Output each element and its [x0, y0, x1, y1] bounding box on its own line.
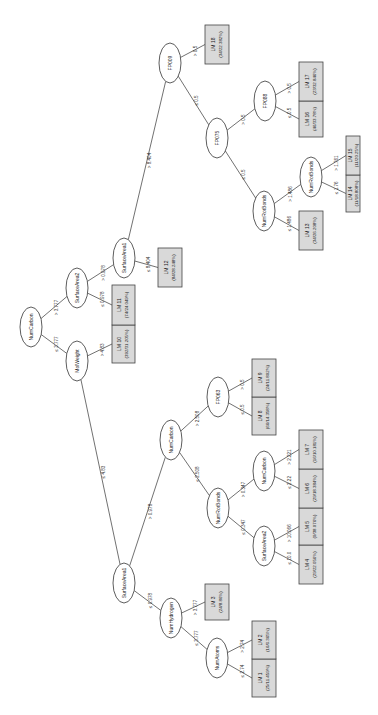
node-attribute-label: FP063	[215, 389, 221, 404]
tree-edge: > 0.347	[228, 479, 254, 500]
leaf-model-box: LM 17(23/32.846%)	[299, 62, 323, 101]
tree-edge: ≤ 0.978	[134, 591, 161, 611]
tree-edge: > 8.404	[128, 81, 165, 239]
leaf-model-name: LM 1	[257, 672, 263, 683]
leaf-model-stats: (16/10.181%)	[312, 436, 317, 463]
edge-split-label: ≤ 10.0	[287, 551, 292, 564]
edge-split-label: > 10.066	[287, 524, 292, 542]
edge-split-label: > 8.404	[147, 152, 152, 168]
leaf-model-box: LM 4(29/22.056%)	[299, 545, 323, 584]
tree-edge: > 0.978	[87, 265, 113, 282]
edge-split-label: > 1.761	[334, 155, 339, 171]
leaf-model-box: LM 12(84/28.248%)	[158, 248, 182, 287]
split-node: NumAtoms	[206, 638, 228, 678]
edge-split-label: ≤ 1.486	[287, 216, 292, 232]
leaf-model-stats: (16/6.365%)	[265, 628, 270, 652]
edge-split-label: ≤ 3.777	[194, 630, 199, 646]
split-node: FP088	[254, 81, 276, 121]
edge-split-label: > 1.486	[288, 186, 293, 202]
split-node: SurfaceArea2	[253, 526, 275, 566]
split-node: MolWeight	[66, 341, 88, 381]
leaf-model-name: LM 8	[257, 410, 263, 421]
tree-edge: ≤ 10.0	[275, 551, 299, 564]
edge-split-label: > 2.221	[287, 449, 292, 465]
leaf-model-stats: (34/26.208%)	[312, 217, 317, 244]
tree-edge: > 0.5	[181, 45, 205, 58]
edge-split-label: ≤ 1.76	[334, 181, 339, 194]
edge-split-label: ≤ 0.347	[241, 519, 246, 535]
tree-edge: ≤ 4.83	[81, 380, 120, 565]
leaf-model-stats: (29/18.384%)	[312, 475, 317, 502]
edge-split-label: > 2.508	[195, 410, 200, 426]
leaf-model-box: LM 9(24/11.802%)	[252, 359, 276, 397]
edge-split-label: ≤ 0.978	[100, 291, 105, 307]
tree-edge: ≤ 0.5	[225, 151, 255, 198]
tree-edge: ≤ 0.5	[178, 76, 208, 125]
tree-edge: > 2.221	[274, 449, 299, 465]
leaf-model-name: LM 13	[304, 223, 310, 237]
edge-split-label: ≤ 0.5	[241, 169, 246, 180]
leaf-model-box: LM 5(9/38.076%)	[299, 508, 323, 545]
leaf-model-box: LM 13(34/26.208%)	[299, 211, 323, 250]
tree-edge: > 1.761	[321, 155, 346, 171]
edge-split-label: > 0.5	[240, 379, 245, 390]
tree-edge: > 1.486	[274, 184, 301, 203]
leaf-model-stats: (9/38.076%)	[312, 514, 317, 538]
node-attribute-label: FP075	[214, 130, 220, 145]
leaf-model-box: LM 3(24/8.86%)	[205, 584, 229, 620]
split-node: FP009	[159, 43, 181, 83]
leaf-model-name: LM 10	[116, 337, 122, 351]
leaf-model-name: LM 4	[304, 559, 310, 570]
tree-edge: > 0.978	[130, 457, 166, 566]
leaf-model-box: LM 16(46/33.78%)	[299, 101, 323, 137]
node-attribute-label: MolWeight	[74, 349, 80, 373]
edge-split-label: > 0.5	[241, 114, 246, 125]
edge-split-label: ≤ 2.508	[195, 466, 200, 482]
tree-edge: ≤ 2.508	[180, 452, 210, 495]
leaf-model-name: LM 15	[347, 148, 353, 162]
node-attribute-label: NumRotBonds	[215, 491, 221, 524]
leaf-model-stats: (29/22.056%)	[312, 551, 317, 578]
node-attribute-label: NumRotBonds	[308, 160, 314, 193]
tree-edge: ≤ 3.777	[181, 627, 207, 650]
split-node: NumCarbon	[253, 451, 275, 491]
leaf-model-box: LM 8(66/14.358%)	[252, 397, 276, 435]
tree-edge: > 2.508	[181, 406, 208, 431]
tree-edge: ≤ 2.22	[275, 476, 299, 489]
node-attribute-label: NumHydrogen	[168, 602, 174, 634]
leaf-model-name: LM 2	[257, 634, 263, 645]
leaf-model-box: LM 18(34/22.382%)	[205, 25, 229, 64]
node-attribute-label: FP009	[167, 55, 173, 70]
leaf-model-stats: (24/11.802%)	[265, 364, 270, 391]
tree-edge: ≤ 3.777	[41, 335, 67, 354]
split-node: NumRotBonds	[253, 191, 275, 231]
leaf-model-box: LM 11(74/24.049%)	[112, 285, 135, 325]
edge-split-label: ≤ 0.5	[287, 107, 292, 118]
leaf-model-box: LM 2(16/6.365%)	[252, 621, 276, 659]
leaf-model-stats: (11/18.808%)	[354, 180, 359, 207]
node-attribute-label: FP088	[262, 93, 268, 108]
tree-edge: ≤ 0.978	[88, 291, 112, 307]
tree-edge: > 0.5	[229, 378, 252, 391]
edge-split-label: > 4.83	[100, 343, 105, 356]
leaf-model-stats: (24/8.86%)	[218, 591, 223, 613]
node-attribute-label: NumCarbon	[168, 426, 174, 453]
tree-edge: > 0.5	[227, 109, 255, 130]
tree-edge: ≤ 0.5	[276, 107, 299, 119]
split-node: FP075	[206, 118, 228, 158]
edge-split-label: ≤ 3.777	[54, 336, 59, 352]
edge-split-label: > 3.777	[54, 299, 59, 315]
split-node: FP063	[207, 377, 229, 417]
leaf-model-name: LM 16	[304, 112, 310, 126]
leaf-model-box: LM 7(16/10.181%)	[299, 430, 323, 469]
leaf-model-stats: (66/14.358%)	[265, 402, 270, 429]
edge-split-label: > 3.777	[193, 599, 198, 615]
leaf-model-stats: (74/24.049%)	[124, 291, 129, 318]
leaf-model-name: LM 17	[304, 74, 310, 88]
edge-split-label: > 0.347	[241, 481, 246, 497]
split-node: SurfaceArea1	[113, 238, 135, 278]
node-attribute-label: SurfaceArea1	[121, 242, 127, 273]
node-attribute-label: NumAtoms	[214, 645, 220, 670]
edge-split-label: ≤ 0.978	[148, 592, 153, 608]
edge-split-label: ≤ 2.22	[287, 476, 292, 489]
